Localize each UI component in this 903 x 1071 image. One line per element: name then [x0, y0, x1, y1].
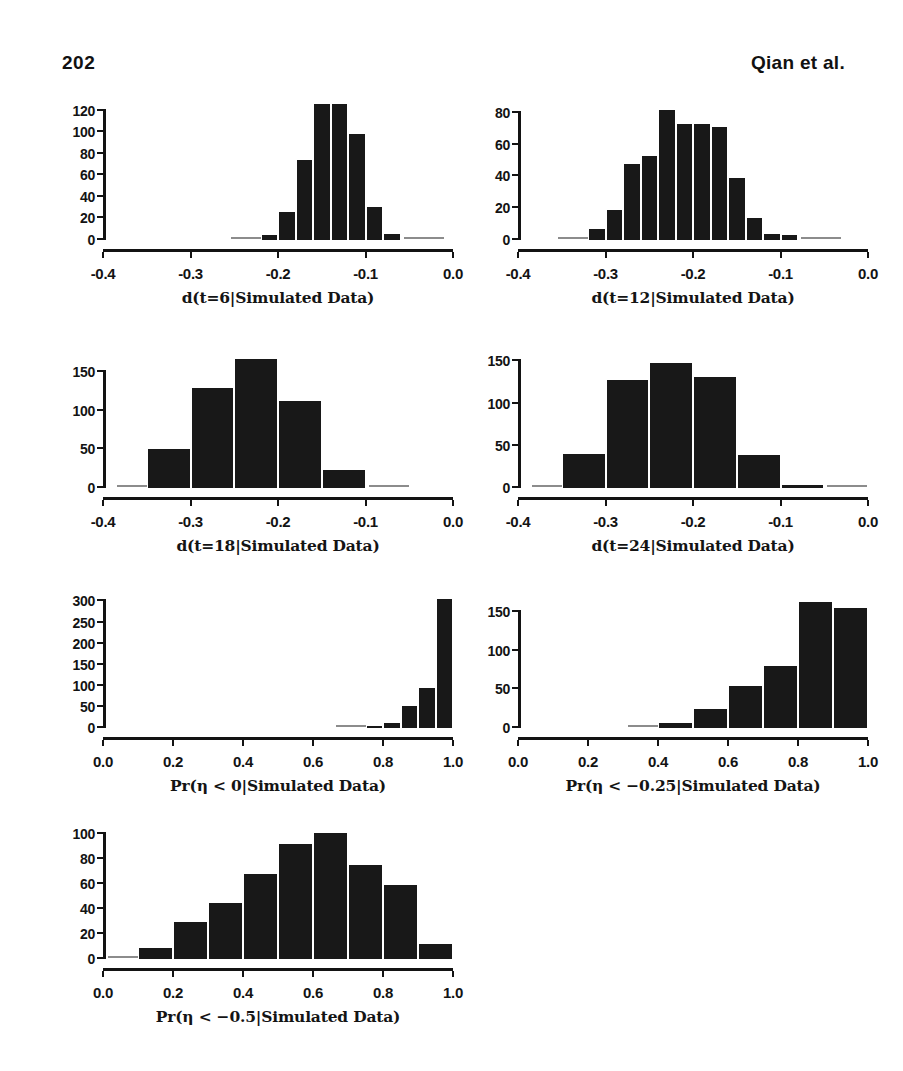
x-axis-tick: [780, 252, 782, 258]
bars-layer: [518, 593, 868, 728]
x-axis-tick: [102, 252, 104, 258]
y-axis-tick-label: 80: [55, 851, 95, 867]
x-axis-tick-label: -0.4: [488, 265, 548, 282]
histogram-bar: [676, 124, 694, 240]
histogram-panel-6: 0501001500.00.20.40.60.81.0Pr(η < −0.25|…: [470, 593, 890, 808]
x-axis-tick-label: -0.1: [751, 513, 811, 530]
histogram-bar: [763, 234, 781, 240]
histogram-bar: [649, 363, 693, 488]
histogram-bar: [383, 885, 418, 959]
y-axis-tick-label: 150: [55, 657, 95, 673]
plot-area: 050100150-0.4-0.3-0.2-0.10.0: [103, 353, 453, 488]
histogram-bar: [798, 602, 833, 729]
x-axis-tick-label: 0.8: [353, 984, 413, 1001]
x-axis-tick-label: -0.3: [576, 513, 636, 530]
histogram-bar: [296, 160, 314, 240]
x-axis-tick: [102, 971, 104, 977]
histogram-bar: [693, 377, 737, 488]
x-axis-tick: [657, 740, 659, 746]
x-axis-tick-label: 0.4: [628, 753, 688, 770]
histogram-bar: [562, 454, 606, 488]
x-axis-tick: [867, 740, 869, 746]
histogram-bar: [138, 948, 173, 959]
x-axis-tick-label: 0.0: [73, 984, 133, 1001]
x-axis-tick-label: 0.8: [353, 753, 413, 770]
histogram-bar: [641, 156, 659, 240]
y-axis-tick-label: 0: [55, 951, 95, 967]
histogram-panel-5: 0501001502002503000.00.20.40.60.81.0Pr(η…: [55, 593, 475, 808]
histogram-bar: [436, 599, 454, 728]
y-axis-tick-label: 100: [470, 643, 510, 659]
x-axis-tick: [102, 500, 104, 506]
x-axis-spine: [103, 737, 453, 740]
y-axis-tick-label: 0: [470, 480, 510, 496]
histogram-bar: [234, 359, 278, 488]
x-axis-caption: Pr(η < −0.5|Simulated Data): [103, 1007, 453, 1026]
x-axis-tick-label: -0.4: [73, 513, 133, 530]
histogram-bar: [313, 833, 348, 959]
y-axis-tick-label: 0: [55, 720, 95, 736]
histogram-bar: [658, 723, 693, 728]
y-axis-tick-label: 150: [55, 364, 95, 380]
histogram-bar: [322, 470, 366, 488]
running-head: Qian et al.: [751, 52, 845, 74]
x-axis-tick-label: 0.6: [283, 753, 343, 770]
x-axis-tick: [727, 740, 729, 746]
histogram-bar: [763, 666, 798, 728]
x-axis-tick: [277, 252, 279, 258]
x-axis-tick: [452, 971, 454, 977]
x-axis-tick-label: 0.4: [213, 753, 273, 770]
y-axis-tick-label: 100: [55, 678, 95, 694]
x-axis-spine: [103, 968, 453, 971]
y-axis-tick-label: 50: [470, 681, 510, 697]
histogram-panel-2: 020406080-0.4-0.3-0.2-0.10.0d(t=12|Simul…: [470, 100, 890, 320]
x-axis-tick: [312, 740, 314, 746]
x-axis-tick: [692, 500, 694, 506]
x-axis-tick: [517, 740, 519, 746]
x-axis-tick: [605, 252, 607, 258]
histogram-bar: [781, 485, 825, 488]
histogram-bar: [418, 944, 453, 959]
x-axis-tick-label: -0.4: [488, 513, 548, 530]
x-axis-tick-label: 0.2: [558, 753, 618, 770]
histogram-panel-1: 020406080100120-0.4-0.3-0.2-0.10.0d(t=6|…: [55, 100, 475, 320]
x-axis-caption: Pr(η < 0|Simulated Data): [103, 776, 453, 795]
x-axis-tick-label: -0.1: [336, 265, 396, 282]
histogram-bar: [313, 104, 331, 240]
y-axis-tick-label: 60: [55, 876, 95, 892]
histogram-panel-3: 050100150-0.4-0.3-0.2-0.10.0d(t=18|Simul…: [55, 353, 475, 568]
y-axis-tick-label: 60: [55, 167, 95, 183]
x-axis-tick: [365, 252, 367, 258]
page-header: 202 Qian et al.: [0, 52, 903, 80]
y-axis-tick-label: 300: [55, 593, 95, 609]
x-axis-tick-label: -0.2: [663, 265, 723, 282]
histogram-bar: [147, 449, 191, 488]
y-axis-tick-label: 100: [470, 396, 510, 412]
y-axis-tick-label: 20: [55, 926, 95, 942]
y-axis-tick-label: 0: [55, 480, 95, 496]
x-axis-tick-label: -0.2: [248, 265, 308, 282]
x-axis-tick: [867, 500, 869, 506]
y-axis-tick-label: 150: [470, 353, 510, 369]
x-axis-tick: [517, 500, 519, 506]
histogram-bar: [606, 380, 650, 488]
x-axis-tick-label: 0.6: [283, 984, 343, 1001]
y-axis-tick-label: 40: [55, 901, 95, 917]
plot-area: 0204060801000.00.20.40.60.81.0: [103, 824, 453, 959]
x-axis-tick-label: -0.1: [336, 513, 396, 530]
x-axis-tick: [365, 500, 367, 506]
x-axis-tick: [242, 740, 244, 746]
bars-layer: [103, 824, 453, 959]
histogram-bar: [746, 218, 764, 240]
y-axis-tick-label: 20: [55, 210, 95, 226]
y-axis-tick-label: 40: [55, 189, 95, 205]
x-axis-tick-label: 0.0: [488, 753, 548, 770]
y-axis-tick-label: 50: [55, 699, 95, 715]
x-axis-tick: [867, 252, 869, 258]
x-axis-tick: [587, 740, 589, 746]
plot-area: 0501001500.00.20.40.60.81.0: [518, 593, 868, 728]
x-axis-tick: [692, 252, 694, 258]
x-axis-tick: [277, 500, 279, 506]
x-axis-tick: [797, 740, 799, 746]
histogram-bar: [833, 608, 868, 728]
